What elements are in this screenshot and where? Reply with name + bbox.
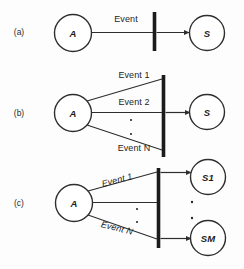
panel-a: (a) A Event S [14, 12, 225, 52]
diagram-canvas: (a) A Event S (b) [0, 0, 244, 269]
panel-c-event-1-label: Event 1 [101, 171, 134, 189]
dot [136, 208, 138, 210]
dot [191, 201, 193, 203]
panel-b-event-2-label: Event 2 [118, 97, 149, 107]
panel-c-node-a-label: A [69, 198, 77, 209]
panel-c-node-s1: S1 [191, 160, 226, 195]
dot [130, 133, 132, 135]
panel-a-event-label: Event [114, 14, 138, 24]
panel-a-node-s: S [190, 16, 225, 51]
panel-b-node-a-label: A [68, 108, 76, 119]
panel-b-vertical-dots [130, 119, 132, 135]
panel-c-node-sm: SM [191, 221, 226, 256]
panel-c-vertical-dots [136, 208, 138, 223]
panel-b-node-s-label: S [204, 107, 211, 118]
panel-b-node-s: S [190, 95, 225, 130]
dot [136, 221, 138, 223]
panel-a-label: (a) [14, 27, 25, 37]
panel-c-node-s1-label: S1 [202, 172, 214, 183]
panel-c-label: (c) [14, 198, 24, 208]
panel-c: (c) A Event 1 Event N [14, 160, 225, 256]
panel-c-target-dots [191, 201, 193, 219]
panel-a-node-a-label: A [68, 28, 76, 39]
panel-b: (b) A Event 1 Event 2 Event N [14, 70, 225, 158]
panel-a-node-a: A [55, 15, 92, 52]
dot [130, 119, 132, 121]
panel-c-node-a: A [56, 185, 93, 222]
panel-b-event-1-label: Event 1 [118, 70, 149, 80]
panel-b-event-n-label: Event N [118, 143, 151, 153]
panel-c-event-n-label: Event N [100, 219, 135, 237]
panel-b-label: (b) [14, 108, 25, 118]
event-transition-figure: (a) A Event S (b) [0, 0, 244, 269]
panel-a-node-s-label: S [204, 28, 211, 39]
dot [191, 217, 193, 219]
panel-b-node-a: A [55, 95, 92, 132]
panel-c-node-sm-label: SM [201, 233, 217, 244]
